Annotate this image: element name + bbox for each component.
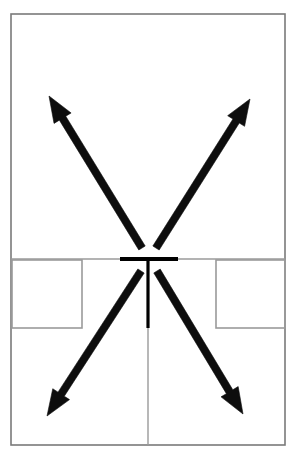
diagram-canvas — [0, 0, 296, 458]
floor-plan-diagram — [0, 0, 296, 458]
